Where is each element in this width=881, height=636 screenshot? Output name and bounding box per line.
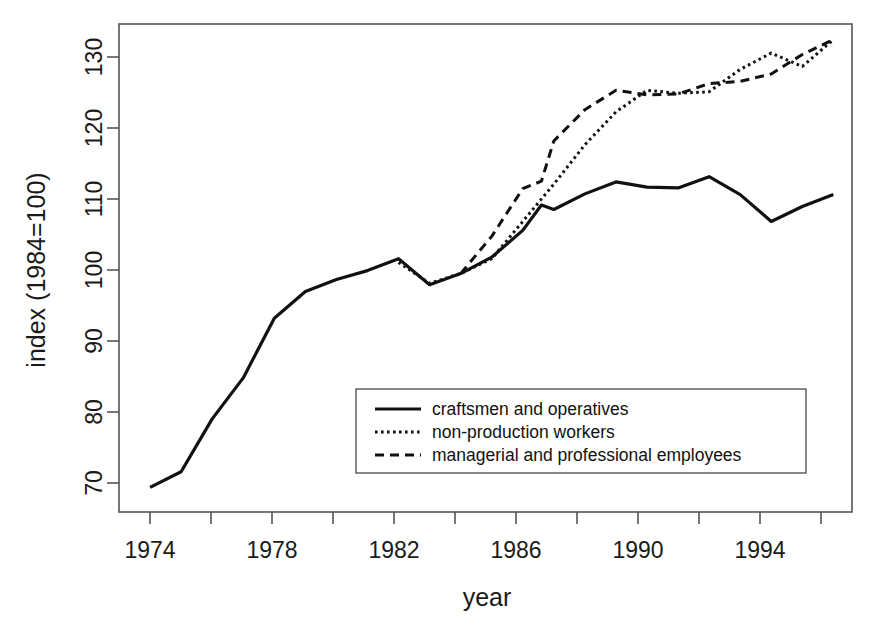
- x-tick-label: 1994: [734, 537, 785, 563]
- y-axis-tick-labels: 130 120 110 100 90 80 70: [81, 38, 107, 496]
- series-non-production-workers: [399, 40, 834, 284]
- x-tick-label: 1986: [490, 537, 541, 563]
- x-tick-label: 1990: [612, 537, 663, 563]
- x-axis-tick-labels: 1974 1978 1982 1986 1990 1994: [124, 537, 785, 563]
- y-tick-label: 70: [81, 470, 107, 496]
- x-axis-title: year: [463, 583, 512, 611]
- x-tick-label: 1982: [368, 537, 419, 563]
- y-axis-ticks: [107, 57, 119, 483]
- y-tick-label: 120: [81, 109, 107, 147]
- x-axis-ticks: [150, 512, 821, 524]
- y-tick-label: 100: [81, 251, 107, 289]
- line-chart: 130 120 110 100 90 80 70 index (1984=100…: [0, 0, 881, 636]
- chart-figure: 130 120 110 100 90 80 70 index (1984=100…: [0, 0, 881, 636]
- legend-label-craftsmen: craftsmen and operatives: [432, 399, 629, 419]
- y-axis-title: index (1984=100): [22, 172, 50, 367]
- y-tick-label: 130: [81, 38, 107, 76]
- series-managerial-and-professional-employees: [461, 40, 834, 274]
- y-tick-label: 80: [81, 399, 107, 425]
- y-tick-label: 110: [81, 181, 107, 218]
- y-tick-label: 90: [81, 328, 107, 354]
- legend-label-non-production: non-production workers: [432, 422, 615, 442]
- legend-label-managerial: managerial and professional employees: [432, 445, 742, 465]
- chart-legend: craftsmen and operatives non-production …: [356, 389, 806, 473]
- x-tick-label: 1978: [246, 537, 297, 563]
- x-tick-label: 1974: [124, 537, 175, 563]
